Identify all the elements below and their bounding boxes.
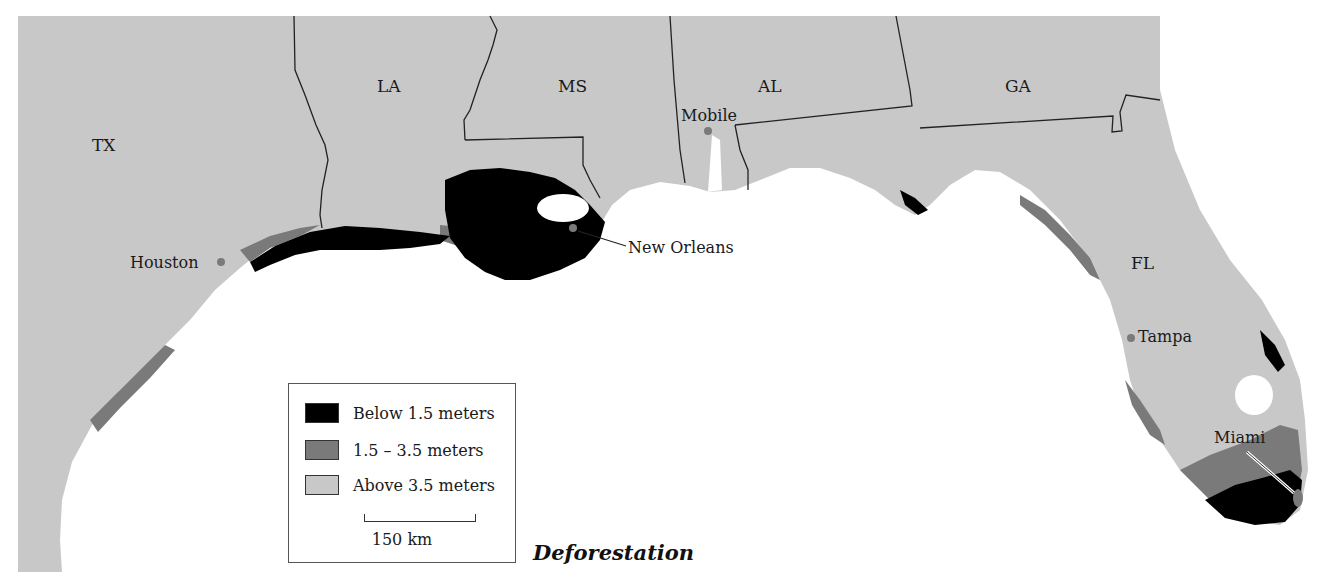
legend-item-high: Above 3.5 meters: [305, 475, 495, 495]
legend-swatch-light-gray: [305, 475, 339, 495]
legend-label: Above 3.5 meters: [353, 476, 495, 495]
state-label-ga: GA: [1005, 76, 1031, 96]
lake-pontchartrain: [537, 194, 589, 222]
legend: Below 1.5 meters 1.5 – 3.5 meters Above …: [288, 383, 516, 563]
legend-label: 1.5 – 3.5 meters: [353, 441, 484, 460]
lake-okeechobee: [1235, 375, 1273, 415]
new-orleans-marker: [569, 224, 577, 232]
city-label-new-orleans: New Orleans: [628, 238, 734, 257]
scale-label: 150 km: [289, 530, 515, 549]
state-label-al: AL: [758, 76, 782, 96]
land-mass: [18, 16, 1308, 572]
city-label-tampa: Tampa: [1138, 327, 1192, 346]
legend-label: Below 1.5 meters: [353, 404, 495, 423]
map-figure: TX LA MS AL GA FL Houston Mobile New Orl…: [0, 0, 1317, 572]
state-label-tx: TX: [92, 135, 115, 155]
state-label-la: LA: [377, 76, 401, 96]
figure-title: Deforestation: [533, 540, 694, 565]
state-label-ms: MS: [558, 76, 587, 96]
legend-swatch-dark-gray: [305, 440, 339, 460]
legend-item-low: Below 1.5 meters: [305, 403, 495, 423]
legend-swatch-black: [305, 403, 339, 423]
state-label-fl: FL: [1131, 253, 1154, 273]
gulf-coast-map: [0, 0, 1317, 572]
city-label-houston: Houston: [130, 253, 198, 272]
houston-marker: [217, 258, 225, 266]
tampa-marker: [1127, 334, 1135, 342]
scale-bar: [364, 514, 476, 522]
mobile-marker: [704, 127, 712, 135]
city-label-miami: Miami: [1214, 428, 1265, 447]
city-label-mobile: Mobile: [681, 106, 737, 125]
legend-item-mid: 1.5 – 3.5 meters: [305, 440, 484, 460]
